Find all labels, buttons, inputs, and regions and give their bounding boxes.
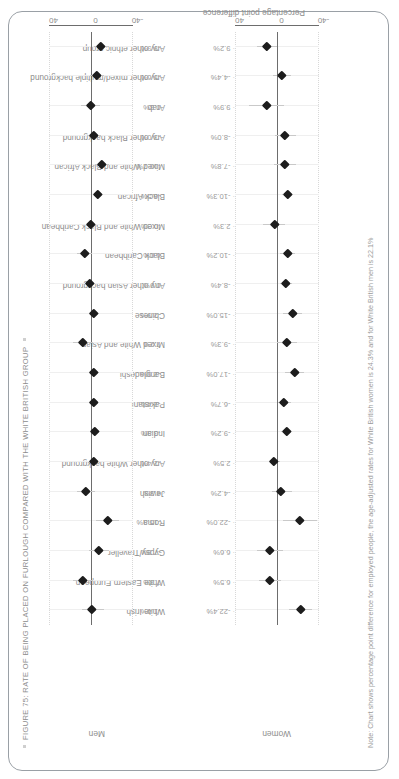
value-label: ·-9.2% [211,429,235,438]
value-label: ·7.3% [143,578,165,587]
value-label: ·0.9% [143,281,165,290]
value-label: ·4.3% [143,489,165,498]
value-label: ·-4.4% [211,73,235,82]
value-label: ·-2.9% [141,311,165,320]
value-axis-women [235,25,319,26]
value-label: ·-22.0% [206,518,235,527]
value-label: ·-15.9% [136,518,165,527]
square-bullet-icon-trailing [23,338,26,341]
value-label: ·-8.4% [211,281,235,290]
value-label: ·6.5% [213,578,235,587]
value-label: ·-7.8% [141,548,165,557]
value-labels-women: ·-22.4%·6.5%·6.6%·-22.0%·-4.2%·2.5%·-9.2… [189,32,235,625]
value-label: ·-8.0% [211,133,235,142]
figure-card: FIGURE 75: RATE OF BEING PLACED ON FURLO… [8,11,389,771]
value-label: ·-3.9% [141,429,165,438]
value-label: ·6.0% [143,251,165,260]
rotated-figure-wrapper: FIGURE 75: RATE OF BEING PLACED ON FURLO… [0,0,399,779]
value-label: ·9.9% [213,103,235,112]
value-label: ·-6.5% [141,192,165,201]
zero-reference-line [91,32,92,625]
value-label: ·-7.8% [211,162,235,171]
value-label: ·-9.9% [141,44,165,53]
value-label: ·-17.0% [206,370,235,379]
value-label: ·-4.2% [211,489,235,498]
value-label: ·-2.4% [141,459,165,468]
panel-women: -40040Women [235,32,319,625]
value-label: ·-1.4% [141,607,165,616]
value-label: ·-2.4% [141,400,165,409]
value-label: ·2.5% [213,459,235,468]
value-label: ·-3.0% [141,133,165,142]
value-label: ·-2.9% [141,370,165,379]
value-label: ·9.2% [213,44,235,53]
value-label: ·-15.0% [206,311,235,320]
plot-area: White IrishWhite Eastern EuropeanGypsy/T… [45,32,345,748]
panel-title-women: Women [262,729,291,739]
value-label: ·-9.3% [211,340,235,349]
square-bullet-icon [23,745,26,748]
value-label: ·-6.7% [211,400,235,409]
axis-tick-label: 40 [49,16,58,25]
value-label: ·7.2% [143,340,165,349]
figure-note: Note: Chart shows percentage point diffe… [366,28,376,748]
panel-title-men: Men [89,729,105,739]
value-label: ·-10.3% [206,192,235,201]
value-label: ·0.3% [143,103,165,112]
value-label: ·-10.2% [206,251,235,260]
axis-caption: Percentage point difference [203,8,305,18]
figure-title-text: FIGURE 75: RATE OF BEING PLACED ON FURLO… [21,347,30,740]
value-label: ·6.6% [213,548,235,557]
value-label: ·-0.3% [141,222,165,231]
axis-tick-label: 0 [93,16,97,25]
panel-men: -40040Men [49,32,133,625]
zero-reference-line [277,32,278,625]
value-label: ·-22.4% [206,607,235,616]
value-label: ·-10.7% [136,162,165,171]
value-axis-men [49,25,133,26]
axis-tick-label: -40 [318,16,330,25]
value-label: ·-5.6% [141,73,165,82]
figure-title: FIGURE 75: RATE OF BEING PLACED ON FURLO… [21,338,30,748]
axis-tick-label: -40 [132,16,144,25]
value-label: ·2.3% [213,222,235,231]
